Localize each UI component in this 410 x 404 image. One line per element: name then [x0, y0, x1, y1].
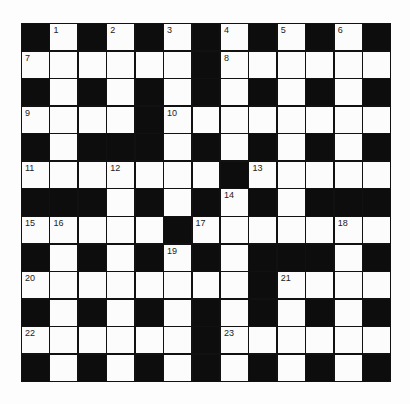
answer-cell[interactable]: [221, 272, 248, 298]
answer-cell[interactable]: [50, 79, 77, 105]
answer-cell[interactable]: [50, 272, 77, 298]
answer-cell[interactable]: [50, 107, 77, 133]
answer-cell[interactable]: [249, 217, 276, 243]
answer-cell[interactable]: [107, 79, 134, 105]
answer-cell[interactable]: [335, 327, 362, 353]
answer-cell[interactable]: [50, 162, 77, 188]
answer-cell[interactable]: [50, 52, 77, 78]
answer-cell[interactable]: [107, 107, 134, 133]
answer-cell[interactable]: 19: [164, 245, 191, 271]
answer-cell[interactable]: [79, 107, 106, 133]
answer-cell[interactable]: [278, 217, 305, 243]
answer-cell[interactable]: [278, 79, 305, 105]
answer-cell[interactable]: 20: [22, 272, 49, 298]
answer-cell[interactable]: [278, 162, 305, 188]
answer-cell[interactable]: 3: [164, 24, 191, 50]
answer-cell[interactable]: 14: [221, 189, 248, 215]
answer-cell[interactable]: [50, 134, 77, 160]
answer-cell[interactable]: [335, 300, 362, 326]
answer-cell[interactable]: [107, 327, 134, 353]
answer-cell[interactable]: [221, 355, 248, 381]
answer-cell[interactable]: [363, 52, 390, 78]
answer-cell[interactable]: [278, 189, 305, 215]
answer-cell[interactable]: [306, 272, 333, 298]
answer-cell[interactable]: [363, 327, 390, 353]
answer-cell[interactable]: [164, 79, 191, 105]
answer-cell[interactable]: 2: [107, 24, 134, 50]
answer-cell[interactable]: 21: [278, 272, 305, 298]
answer-cell[interactable]: [107, 52, 134, 78]
answer-cell[interactable]: 7: [22, 52, 49, 78]
answer-cell[interactable]: [164, 52, 191, 78]
answer-cell[interactable]: 5: [278, 24, 305, 50]
answer-cell[interactable]: [193, 107, 220, 133]
answer-cell[interactable]: [136, 327, 163, 353]
answer-cell[interactable]: [136, 162, 163, 188]
answer-cell[interactable]: 4: [221, 24, 248, 50]
answer-cell[interactable]: [50, 327, 77, 353]
answer-cell[interactable]: [335, 245, 362, 271]
answer-cell[interactable]: [107, 272, 134, 298]
answer-cell[interactable]: [363, 272, 390, 298]
answer-cell[interactable]: [164, 327, 191, 353]
answer-cell[interactable]: 12: [107, 162, 134, 188]
answer-cell[interactable]: [249, 327, 276, 353]
answer-cell[interactable]: [221, 245, 248, 271]
answer-cell[interactable]: [164, 300, 191, 326]
answer-cell[interactable]: 10: [164, 107, 191, 133]
answer-cell[interactable]: 6: [335, 24, 362, 50]
answer-cell[interactable]: [50, 355, 77, 381]
answer-cell[interactable]: [249, 52, 276, 78]
answer-cell[interactable]: [79, 52, 106, 78]
answer-cell[interactable]: [136, 217, 163, 243]
answer-cell[interactable]: [164, 272, 191, 298]
answer-cell[interactable]: 9: [22, 107, 49, 133]
answer-cell[interactable]: [193, 272, 220, 298]
answer-cell[interactable]: 1: [50, 24, 77, 50]
answer-cell[interactable]: [278, 52, 305, 78]
answer-cell[interactable]: 18: [335, 217, 362, 243]
answer-cell[interactable]: 13: [249, 162, 276, 188]
answer-cell[interactable]: [306, 217, 333, 243]
answer-cell[interactable]: [107, 189, 134, 215]
answer-cell[interactable]: [221, 217, 248, 243]
answer-cell[interactable]: [107, 355, 134, 381]
answer-cell[interactable]: [306, 327, 333, 353]
answer-cell[interactable]: [249, 107, 276, 133]
answer-cell[interactable]: [335, 355, 362, 381]
answer-cell[interactable]: 11: [22, 162, 49, 188]
answer-cell[interactable]: [221, 300, 248, 326]
answer-cell[interactable]: 17: [193, 217, 220, 243]
answer-cell[interactable]: [79, 272, 106, 298]
answer-cell[interactable]: [221, 107, 248, 133]
answer-cell[interactable]: [221, 134, 248, 160]
answer-cell[interactable]: [278, 107, 305, 133]
answer-cell[interactable]: [363, 162, 390, 188]
answer-cell[interactable]: [50, 300, 77, 326]
answer-cell[interactable]: [107, 300, 134, 326]
answer-cell[interactable]: [335, 52, 362, 78]
answer-cell[interactable]: 22: [22, 327, 49, 353]
answer-cell[interactable]: 8: [221, 52, 248, 78]
answer-cell[interactable]: [193, 162, 220, 188]
answer-cell[interactable]: 15: [22, 217, 49, 243]
answer-cell[interactable]: [363, 107, 390, 133]
answer-cell[interactable]: [221, 79, 248, 105]
answer-cell[interactable]: [335, 107, 362, 133]
answer-cell[interactable]: [335, 134, 362, 160]
answer-cell[interactable]: [278, 300, 305, 326]
answer-cell[interactable]: 23: [221, 327, 248, 353]
answer-cell[interactable]: [79, 217, 106, 243]
answer-cell[interactable]: [306, 107, 333, 133]
answer-cell[interactable]: [79, 162, 106, 188]
answer-cell[interactable]: [164, 134, 191, 160]
answer-cell[interactable]: [50, 245, 77, 271]
answer-cell[interactable]: [306, 162, 333, 188]
answer-cell[interactable]: [136, 272, 163, 298]
answer-cell[interactable]: [164, 189, 191, 215]
answer-cell[interactable]: [335, 79, 362, 105]
answer-cell[interactable]: [278, 327, 305, 353]
answer-cell[interactable]: [335, 272, 362, 298]
answer-cell[interactable]: [107, 217, 134, 243]
answer-cell[interactable]: [79, 327, 106, 353]
